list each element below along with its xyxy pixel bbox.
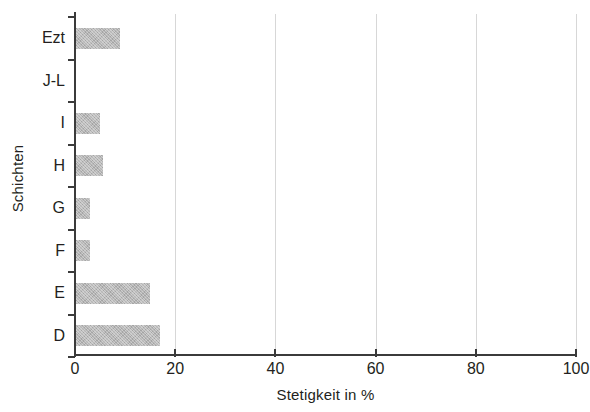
x-tick-100: [575, 349, 577, 357]
bar-D: [75, 325, 160, 346]
bar-I: [75, 113, 100, 134]
x-tick-label-100: 100: [563, 360, 590, 378]
bar-Ezt: [75, 28, 120, 49]
y-tick-top: [68, 16, 75, 18]
category-label-H: H: [5, 157, 65, 175]
bar-H: [75, 155, 103, 176]
x-tick-0: [74, 349, 76, 357]
y-tick-1: [68, 101, 75, 103]
gridline-80: [476, 14, 477, 354]
x-axis-line: [74, 354, 577, 356]
category-label-G: G: [5, 199, 65, 217]
x-tick-80: [475, 349, 477, 357]
gridline-100: [576, 14, 577, 354]
x-tick-label-80: 80: [467, 360, 485, 378]
plot-area: [75, 14, 576, 354]
x-tick-60: [375, 349, 377, 357]
x-tick-label-60: 60: [367, 360, 385, 378]
gridline-20: [175, 14, 176, 354]
y-tick-6: [68, 314, 75, 316]
bar-chart: Schichten Stetigkeit in % 020406080100 E…: [0, 0, 590, 412]
x-tick-label-40: 40: [266, 360, 284, 378]
y-tick-3: [68, 186, 75, 188]
bar-F: [75, 240, 90, 261]
x-tick-label-20: 20: [166, 360, 184, 378]
category-label-J-L: J-L: [5, 72, 65, 90]
x-tick-40: [274, 349, 276, 357]
bar-E: [75, 283, 150, 304]
x-tick-label-0: 0: [71, 360, 80, 378]
y-tick-5: [68, 271, 75, 273]
category-label-E: E: [5, 284, 65, 302]
y-tick-2: [68, 144, 75, 146]
y-tick-0: [68, 59, 75, 61]
category-label-F: F: [5, 242, 65, 260]
category-label-Ezt: Ezt: [5, 29, 65, 47]
bar-G: [75, 198, 90, 219]
gridline-40: [275, 14, 276, 354]
x-tick-20: [174, 349, 176, 357]
category-label-D: D: [5, 327, 65, 345]
y-tick-4: [68, 229, 75, 231]
category-label-I: I: [5, 114, 65, 132]
y-axis-line: [74, 12, 76, 356]
x-axis-title: Stetigkeit in %: [75, 386, 576, 403]
gridline-60: [376, 14, 377, 354]
